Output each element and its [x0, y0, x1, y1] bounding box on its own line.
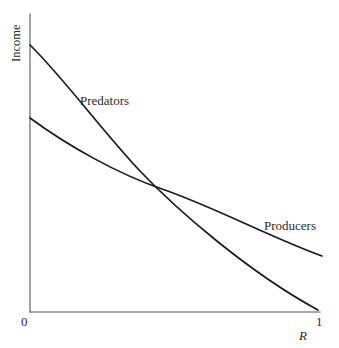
- x-axis-label: R: [299, 329, 307, 342]
- income-vs-r-chart: Income Predators Producers 0 1 R: [0, 0, 339, 348]
- series-label-predators: Predators: [80, 94, 129, 107]
- x-tick-label-0: 0: [21, 315, 28, 328]
- y-axis-label: Income: [10, 15, 23, 71]
- curve-predators: [30, 45, 318, 310]
- chart-plot-area: [0, 0, 339, 348]
- x-tick-label-1: 1: [316, 315, 323, 328]
- series-label-producers: Producers: [264, 219, 316, 232]
- curve-producers: [30, 118, 322, 256]
